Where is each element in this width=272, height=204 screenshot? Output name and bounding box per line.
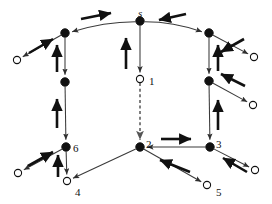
node-c[interactable]: [61, 78, 69, 86]
edge-d-to-3: [209, 86, 210, 140]
flow-arrows-layer: [28, 13, 247, 177]
flow-arrow-top-right: [159, 14, 186, 20]
node-d[interactable]: [205, 77, 213, 85]
node-a[interactable]: [61, 29, 69, 37]
node-t4[interactable]: [14, 169, 21, 176]
node-label-2: 2: [146, 139, 152, 150]
graph-canvas: [0, 0, 272, 204]
node-3[interactable]: [206, 143, 214, 151]
node-1[interactable]: [136, 75, 143, 82]
node-6[interactable]: [62, 143, 70, 151]
node-t2[interactable]: [250, 53, 257, 60]
nodes-layer: [13, 17, 258, 189]
node-label-s: s: [138, 8, 142, 19]
edge-6-to-t4: [24, 149, 62, 170]
routing-tree-figure: s623145: [0, 0, 272, 204]
node-label-4: 4: [75, 187, 81, 198]
node-b[interactable]: [205, 29, 213, 37]
edge-c-to-6: [65, 87, 66, 140]
edge-d-to-t3: [213, 83, 247, 102]
edge-2-to-4: [73, 149, 136, 178]
flow-arrow-6-out: [28, 152, 53, 166]
node-2[interactable]: [136, 143, 144, 151]
node-label-3: 3: [216, 139, 222, 150]
node-label-5: 5: [216, 187, 222, 198]
edge-s-to-b: [145, 22, 202, 32]
node-5[interactable]: [203, 181, 210, 188]
node-label-6: 6: [73, 143, 79, 154]
flow-arrow-d-out: [221, 74, 245, 86]
node-label-1: 1: [149, 76, 155, 87]
flow-arrow-top-left: [81, 13, 111, 19]
edge-s-to-a: [72, 22, 135, 32]
edge-6-to-4: [66, 152, 67, 175]
node-t5[interactable]: [251, 166, 258, 173]
flow-arrow-upper-left-out: [29, 39, 53, 53]
flow-arrow-2-5: [160, 160, 190, 172]
node-4[interactable]: [63, 177, 70, 184]
node-t3[interactable]: [249, 101, 256, 108]
node-t1[interactable]: [13, 56, 20, 63]
